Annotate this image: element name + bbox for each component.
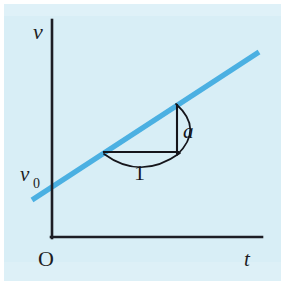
unit-run-label: 1 [134, 160, 145, 185]
velocity-time-plot: v t O v 0 a 1 [0, 0, 283, 284]
acceleration-label: a [183, 119, 194, 143]
y-axis-label: v [33, 19, 43, 44]
panel-fill [4, 4, 281, 281]
origin-label: O [38, 246, 54, 271]
y-intercept-subscript: 0 [33, 176, 40, 191]
y-intercept-label: v [20, 162, 30, 186]
figure-container: v t O v 0 a 1 [0, 0, 283, 284]
panel-top-highlight [4, 4, 281, 16]
